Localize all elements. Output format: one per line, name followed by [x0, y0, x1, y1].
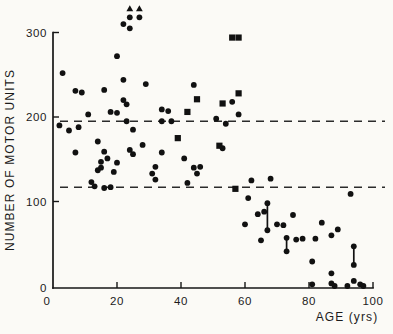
data-point-circle — [236, 112, 242, 118]
data-point-circle — [229, 99, 235, 105]
data-point-circle — [92, 183, 98, 189]
data-point-circle — [98, 159, 104, 165]
data-point-circle — [313, 236, 319, 242]
data-point-circle — [76, 124, 82, 130]
data-point-circle — [127, 14, 133, 20]
data-point-circle — [309, 259, 315, 265]
data-point-circle — [124, 101, 130, 107]
data-point-circle — [114, 160, 120, 166]
data-point-circle — [361, 283, 367, 289]
data-point-circle — [57, 123, 63, 129]
y-tick-label: 0 — [40, 282, 47, 294]
data-point-circle — [268, 176, 274, 182]
data-point-circle — [121, 77, 127, 83]
data-point-circle — [153, 177, 159, 183]
data-point-circle — [60, 70, 66, 76]
data-point-circle — [108, 109, 114, 115]
x-tick-label: 20 — [110, 295, 124, 307]
data-point-circle — [191, 165, 197, 171]
data-point-circle — [185, 180, 191, 186]
data-point-square — [216, 143, 222, 149]
data-point-circle — [213, 116, 219, 122]
x-axis-title: AGE (yrs) — [316, 310, 379, 324]
data-point-circle — [348, 191, 354, 197]
data-point-circle — [258, 237, 264, 243]
data-point-circle — [265, 227, 271, 233]
data-point-circle — [105, 156, 111, 162]
data-point-circle — [114, 110, 120, 116]
data-point-circle — [159, 118, 165, 124]
data-point-circle — [181, 156, 187, 162]
data-point-circle — [95, 139, 101, 145]
x-tick-label: 40 — [174, 295, 188, 307]
data-point-circle — [281, 222, 287, 228]
data-point-circle — [309, 281, 315, 287]
data-point-circle — [73, 150, 79, 156]
data-point-square — [194, 96, 200, 102]
data-point-circle — [293, 237, 299, 243]
data-point-circle — [351, 278, 357, 284]
x-tick-label: 80 — [302, 295, 316, 307]
data-point-circle — [335, 226, 341, 232]
data-point-circle — [351, 243, 357, 249]
data-point-circle — [290, 212, 296, 218]
data-point-square — [229, 34, 235, 40]
data-point-circle — [130, 127, 136, 133]
plot-area: 0100200300020406080100 — [26, 5, 385, 307]
data-point-circle — [345, 283, 351, 289]
data-point-circle — [79, 90, 85, 96]
y-tick-label: 300 — [26, 27, 47, 39]
data-point-circle — [85, 112, 91, 118]
data-point-circle — [223, 121, 229, 127]
data-point-square — [175, 135, 181, 141]
data-point-circle — [101, 149, 107, 155]
data-point-circle — [137, 14, 143, 20]
data-point-circle — [159, 150, 165, 156]
data-point-circle — [143, 81, 149, 87]
data-point-square — [232, 186, 238, 192]
data-point-circle — [242, 221, 248, 227]
up-arrow-icon — [136, 5, 143, 11]
data-point-circle — [261, 209, 267, 215]
data-point-circle — [159, 106, 165, 112]
data-point-circle — [284, 248, 290, 254]
data-point-circle — [140, 142, 146, 148]
data-point-circle — [127, 25, 133, 31]
data-point-circle — [98, 165, 104, 171]
data-point-square — [236, 90, 242, 96]
data-point-circle — [101, 87, 107, 93]
data-point-circle — [66, 128, 72, 134]
data-point-circle — [153, 164, 159, 170]
data-point-circle — [300, 236, 306, 242]
data-point-circle — [130, 151, 136, 157]
data-point-circle — [265, 200, 271, 206]
data-point-circle — [245, 195, 251, 201]
data-point-circle — [319, 220, 325, 226]
x-tick-label: 60 — [238, 295, 252, 307]
data-point-circle — [194, 171, 200, 177]
up-arrow-icon — [126, 5, 133, 11]
x-tick-label: 100 — [363, 295, 384, 307]
data-point-circle — [149, 171, 155, 177]
data-point-square — [236, 34, 242, 40]
scatter-figure: 0100200300020406080100 NUMBER OF MOTOR U… — [0, 0, 393, 334]
data-point-circle — [165, 108, 171, 114]
data-point-circle — [121, 21, 127, 27]
data-point-circle — [124, 118, 130, 124]
data-point-circle — [329, 232, 335, 238]
data-point-circle — [284, 235, 290, 241]
data-point-circle — [351, 262, 357, 268]
data-point-circle — [114, 53, 120, 59]
data-point-circle — [111, 169, 117, 175]
y-tick-label: 100 — [26, 196, 47, 208]
data-point-circle — [274, 221, 280, 227]
data-point-circle — [197, 164, 203, 170]
data-point-square — [220, 100, 226, 106]
data-point-circle — [332, 283, 338, 289]
data-point-circle — [101, 185, 107, 191]
y-axis-title: NUMBER OF MOTOR UNITS — [3, 69, 17, 251]
y-tick-label: 200 — [26, 111, 47, 123]
data-point-circle — [249, 177, 255, 183]
scatter-plot: 0100200300020406080100 NUMBER OF MOTOR U… — [0, 0, 393, 334]
data-point-circle — [191, 82, 197, 88]
